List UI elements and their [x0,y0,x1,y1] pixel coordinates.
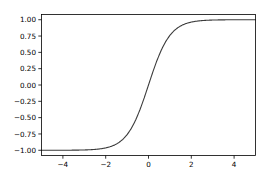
y-tick-label: −0.75 [14,130,36,139]
y-tick-label: 0.50 [20,48,36,57]
y-tick-label: 0.25 [20,64,36,73]
x-tick-label: 2 [189,160,194,169]
y-tick-label: 0.00 [20,81,36,90]
y-tick-label: 1.00 [20,15,36,24]
plot-canvas: −1.00−0.75−0.50−0.250.000.250.500.751.00… [0,0,267,180]
x-tick-label: 4 [232,160,237,169]
y-tick-label: −0.50 [14,113,36,122]
y-tick-label: 0.75 [20,32,36,41]
x-tick-label: −4 [58,160,69,169]
y-tick-label: −0.25 [14,97,36,106]
x-tick-label: 0 [146,160,151,169]
y-tick-label: −1.00 [14,146,36,155]
x-tick-label: −2 [100,160,111,169]
matplotlib-figure: −1.00−0.75−0.50−0.250.000.250.500.751.00… [0,0,267,180]
